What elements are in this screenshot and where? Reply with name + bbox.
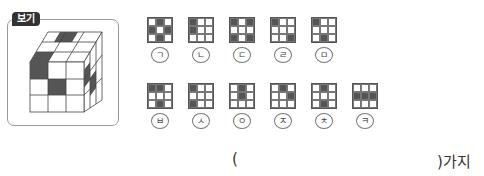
option-grid xyxy=(188,17,214,43)
option-label: ㄴ xyxy=(192,47,210,63)
grid-cell xyxy=(189,34,197,42)
grid-cell xyxy=(164,84,172,92)
grid-cell xyxy=(246,84,254,92)
option-label: ㅊ xyxy=(315,113,333,129)
grid-cell xyxy=(156,18,164,26)
grid-cell xyxy=(369,92,377,100)
grid-cell xyxy=(197,92,205,100)
grid-cell xyxy=(312,84,320,92)
answer-input[interactable] xyxy=(260,150,430,168)
grid-cell xyxy=(205,18,213,26)
grid-cell xyxy=(361,92,369,100)
grid-cell xyxy=(148,100,156,108)
grid-cell xyxy=(148,34,156,42)
grid-cell xyxy=(230,18,238,26)
option-grid xyxy=(147,83,173,109)
grid-cell xyxy=(205,34,213,42)
grid-cell xyxy=(205,92,213,100)
grid-cell xyxy=(205,26,213,34)
grid-cell xyxy=(328,26,336,34)
grid-cell xyxy=(320,84,328,92)
grid-cell xyxy=(246,26,254,34)
grid-cell xyxy=(197,100,205,108)
grid-cell xyxy=(369,100,377,108)
grid-cell xyxy=(156,92,164,100)
grid-cell xyxy=(189,84,197,92)
grid-cell xyxy=(230,92,238,100)
grid-cell xyxy=(238,84,246,92)
grid-cell xyxy=(246,18,254,26)
grid-cell xyxy=(312,26,320,34)
grid-cell xyxy=(287,92,295,100)
grid-cell xyxy=(287,18,295,26)
grid-cell xyxy=(287,100,295,108)
grid-cell xyxy=(197,26,205,34)
option-grid xyxy=(188,83,214,109)
grid-cell xyxy=(271,26,279,34)
grid-cell xyxy=(271,92,279,100)
grid-cell xyxy=(328,92,336,100)
grid-cell xyxy=(164,18,172,26)
grid-cell xyxy=(287,34,295,42)
grid-cell xyxy=(197,84,205,92)
grid-cell xyxy=(230,26,238,34)
grid-cell xyxy=(230,100,238,108)
option-grid xyxy=(229,17,255,43)
option-label: ㄹ xyxy=(274,47,292,63)
grid-cell xyxy=(279,84,287,92)
grid-cell xyxy=(238,92,246,100)
grid-cell xyxy=(271,18,279,26)
grid-cell xyxy=(230,84,238,92)
option-label: ㅂ xyxy=(151,113,169,129)
grid-cell xyxy=(164,34,172,42)
answer-suffix: )가지 xyxy=(437,150,471,171)
option-grid xyxy=(270,17,296,43)
grid-cell xyxy=(369,84,377,92)
grid-cell xyxy=(279,26,287,34)
grid-cell xyxy=(361,100,369,108)
grid-cell xyxy=(320,34,328,42)
grid-cell xyxy=(279,34,287,42)
grid-cell xyxy=(164,100,172,108)
cube-figure-icon xyxy=(0,0,130,130)
answer-open-paren: ( xyxy=(232,150,238,168)
grid-cell xyxy=(320,100,328,108)
grid-cell xyxy=(353,92,361,100)
grid-cell xyxy=(164,92,172,100)
grid-cell xyxy=(197,34,205,42)
grid-cell xyxy=(279,18,287,26)
grid-cell xyxy=(279,92,287,100)
grid-cell xyxy=(148,18,156,26)
grid-cell xyxy=(353,84,361,92)
grid-cell xyxy=(189,26,197,34)
grid-cell xyxy=(156,100,164,108)
grid-cell xyxy=(238,18,246,26)
grid-cell xyxy=(279,100,287,108)
grid-cell xyxy=(238,26,246,34)
grid-cell xyxy=(156,84,164,92)
grid-cell xyxy=(271,100,279,108)
grid-cell xyxy=(320,92,328,100)
grid-cell xyxy=(197,18,205,26)
option-label: ㄷ xyxy=(233,47,251,63)
grid-cell xyxy=(312,34,320,42)
grid-cell xyxy=(328,34,336,42)
grid-cell xyxy=(238,100,246,108)
grid-cell xyxy=(205,100,213,108)
grid-cell xyxy=(271,84,279,92)
grid-cell xyxy=(189,100,197,108)
option-grid xyxy=(311,17,337,43)
grid-cell xyxy=(205,84,213,92)
grid-cell xyxy=(328,18,336,26)
option-grid xyxy=(352,83,378,109)
grid-cell xyxy=(189,92,197,100)
grid-cell xyxy=(246,34,254,42)
option-grid xyxy=(229,83,255,109)
grid-cell xyxy=(312,92,320,100)
option-label: ㄱ xyxy=(151,47,169,63)
grid-cell xyxy=(328,100,336,108)
grid-cell xyxy=(148,84,156,92)
grid-cell xyxy=(148,26,156,34)
option-label: ㅁ xyxy=(315,47,333,63)
grid-cell xyxy=(230,34,238,42)
